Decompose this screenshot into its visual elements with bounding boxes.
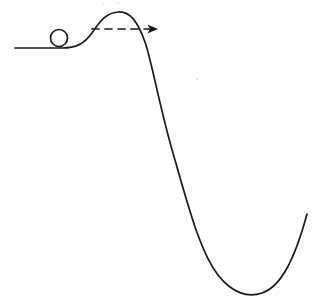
scan-speck-icon — [196, 78, 198, 80]
ball-hill-diagram — [0, 0, 319, 303]
diagram-canvas: Ball rolling over a potential energy hil… — [0, 0, 319, 303]
terrain-curve — [15, 12, 307, 295]
scan-speck-icon — [102, 3, 104, 5]
ball-icon — [51, 30, 68, 47]
scan-speck-icon — [117, 2, 119, 4]
scan-speck-group — [102, 2, 198, 80]
